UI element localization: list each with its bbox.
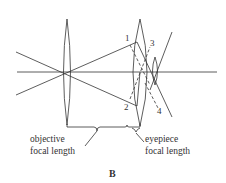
ray-connector [137, 72, 140, 106]
eyepiece-leader [136, 133, 144, 142]
eyepiece-label-line1: eyepiece [145, 134, 178, 144]
objective-label-line2: focal length [30, 146, 75, 156]
ray-out-down [137, 42, 172, 117]
focal-length-brace [67, 124, 140, 131]
ray-label-1: 1 [125, 33, 130, 43]
eyepiece-brace [132, 128, 140, 132]
eyepiece-label-line2: focal length [145, 146, 190, 156]
ray-label-4: 4 [157, 106, 162, 116]
ray-upper-in [16, 52, 137, 106]
figure-label: B [109, 168, 116, 179]
objective-leader [85, 131, 97, 146]
ray-label-3: 3 [150, 38, 155, 48]
ray-label-2: 2 [124, 102, 129, 112]
objective-label-line1: objective [30, 134, 65, 144]
ray-lower-in [16, 42, 137, 95]
telescope-diagram: 1 2 3 4 objective focal length eyepiece … [0, 0, 226, 183]
